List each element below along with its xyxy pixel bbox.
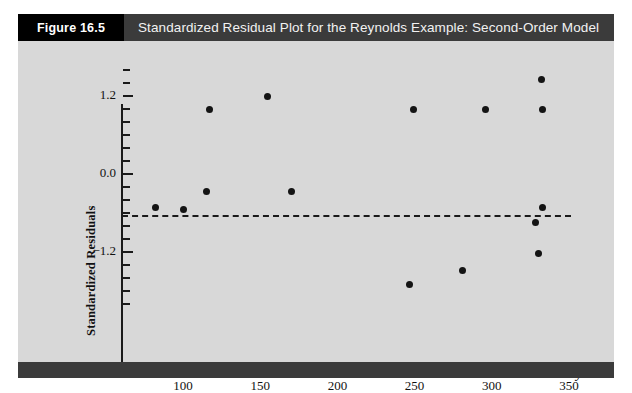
y-axis-title: Standardized Residuals (84, 206, 99, 336)
y-axis-tick-minor (123, 160, 130, 162)
figure-title: Standardized Residual Plot for the Reyno… (124, 14, 614, 41)
y-axis-tick-minor (123, 82, 130, 84)
scatter-point (288, 188, 295, 195)
scatter-point (538, 76, 545, 83)
y-axis-tick-minor (123, 134, 130, 136)
x-axis-tick-label: 150 (236, 378, 284, 393)
y-axis-tick-minor (123, 108, 130, 110)
y-axis-tick-label-text: −1.2 (76, 243, 116, 259)
scatter-point (535, 250, 542, 257)
scatter-point (459, 267, 466, 274)
x-axis-tick-label: 200 (313, 378, 361, 393)
y-axis-tick-minor (123, 121, 130, 123)
y-axis-tick-minor (123, 264, 130, 266)
y-axis-tick-minor (123, 212, 130, 214)
scatter-point (264, 93, 271, 100)
y-axis-tick-minor (123, 69, 130, 71)
figure-number-badge: Figure 16.5 (18, 14, 124, 41)
y-axis-tick-label: 1.2 (70, 87, 116, 103)
zero-reference-line (122, 215, 571, 217)
x-axis-tick-label: 300 (468, 378, 516, 393)
y-axis-tick-minor (123, 238, 130, 240)
figure-container: Figure 16.5 Standardized Residual Plot f… (0, 0, 632, 393)
scatter-point (180, 206, 187, 213)
scatter-point (532, 219, 539, 226)
y-axis-tick-minor (123, 277, 130, 279)
scatter-point (152, 204, 159, 211)
y-axis-tick-minor (123, 303, 130, 305)
y-axis-tick-minor (123, 225, 130, 227)
y-axis-tick-label-text: 0.0 (76, 165, 116, 181)
x-axis-tick-label: 350 (545, 378, 593, 393)
y-axis-tick-label: −1.2 (70, 243, 116, 259)
y-axis-tick-label-text: 1.2 (76, 87, 116, 103)
scatter-point (203, 188, 210, 195)
y-axis-tick-minor (123, 186, 130, 188)
scatter-point (539, 106, 546, 113)
y-axis-tick-major (123, 95, 133, 97)
scatter-point (406, 281, 413, 288)
y-axis-tick-major (123, 173, 133, 175)
scatter-point (410, 106, 417, 113)
y-axis-tick-minor (123, 147, 130, 149)
y-axis-tick-major (123, 251, 133, 253)
scatter-point (482, 106, 489, 113)
x-axis-tick-label: 100 (159, 378, 207, 393)
y-axis-tick-label: 0.0 (70, 165, 116, 181)
plot-panel: Standardized Residuals 1.20.0−1.2 100150… (18, 41, 614, 362)
scatter-point (206, 106, 213, 113)
y-axis-line (121, 104, 123, 376)
y-axis-tick-minor (123, 199, 130, 201)
figure-footer-bar (18, 362, 614, 378)
scatter-point (539, 204, 546, 211)
figure-header: Figure 16.5 Standardized Residual Plot f… (18, 14, 614, 41)
y-axis-title-host: Standardized Residuals (90, 161, 106, 321)
y-axis-tick-minor (123, 290, 130, 292)
x-axis-tick-label: 250 (391, 378, 439, 393)
